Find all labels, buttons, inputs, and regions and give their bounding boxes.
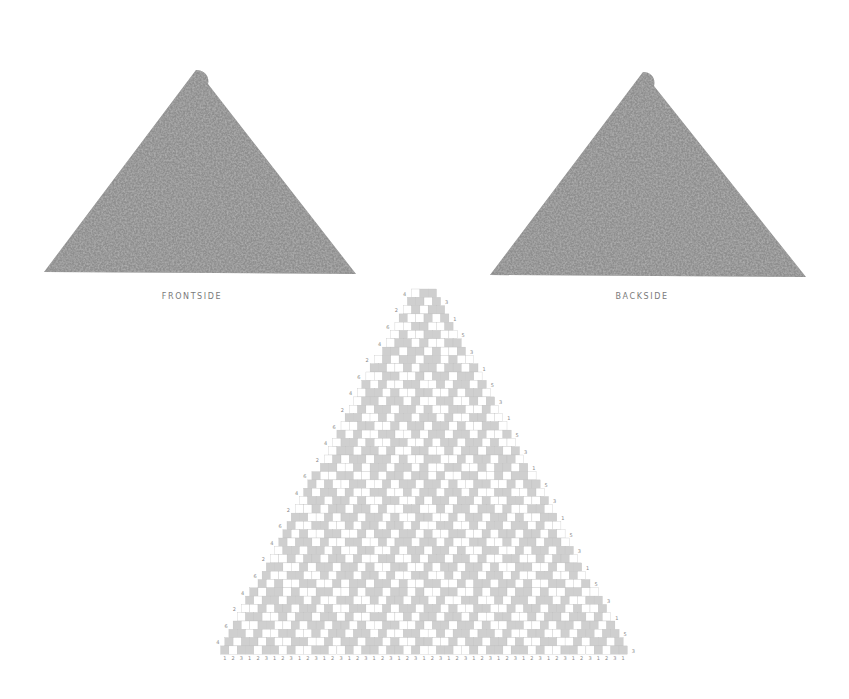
chart-cell-shaded	[503, 488, 511, 496]
chart-cell-empty	[358, 389, 366, 397]
chart-cell-shaded	[441, 621, 449, 629]
chart-cell-empty	[486, 538, 494, 546]
chart-cell-empty	[532, 497, 540, 505]
chart-cell-empty	[461, 488, 469, 496]
chart-cell-empty	[486, 488, 494, 496]
chart-cell-empty	[544, 505, 552, 513]
stitch-label-bottom: 2	[381, 655, 384, 661]
chart-cell-shaded	[549, 604, 557, 612]
chart-cell-shaded	[507, 497, 515, 505]
chart-cell-shaded	[490, 513, 498, 521]
chart-cell-shaded	[349, 588, 357, 596]
chart-cell-shaded	[482, 604, 490, 612]
chart-cell-empty	[283, 621, 291, 629]
chart-cell-empty	[391, 480, 399, 488]
chart-cell-shaded	[378, 538, 386, 546]
chart-cell-shaded	[532, 530, 540, 538]
chart-cell-empty	[486, 414, 494, 422]
chart-cell-shaded	[399, 588, 407, 596]
chart-cell-shaded	[428, 555, 436, 563]
chart-cell-shaded	[432, 297, 440, 305]
chart-cell-empty	[295, 629, 303, 637]
chart-cell-shaded	[270, 596, 278, 604]
chart-cell-empty	[499, 546, 507, 554]
chart-cell-shaded	[378, 364, 386, 372]
chart-cell-empty	[412, 463, 420, 471]
chart-cell-shaded	[416, 621, 424, 629]
chart-cell-shaded	[424, 455, 432, 463]
chart-cell-shaded	[424, 438, 432, 446]
chart-cell-shaded	[366, 546, 374, 554]
chart-cell-shaded	[466, 638, 474, 646]
chart-cell-empty	[304, 646, 312, 654]
chart-cell-empty	[445, 505, 453, 513]
chart-cell-shaded	[366, 389, 374, 397]
chart-cell-shaded	[453, 629, 461, 637]
chart-cell-shaded	[503, 629, 511, 637]
chart-cell-empty	[486, 555, 494, 563]
chart-cell-empty	[258, 588, 266, 596]
chart-row	[349, 405, 498, 413]
chart-cell-shaded	[300, 513, 308, 521]
chart-cell-empty	[449, 422, 457, 430]
chart-cell-shaded	[499, 638, 507, 646]
chart-cell-empty	[441, 389, 449, 397]
chart-cell-shaded	[391, 347, 399, 355]
chart-cell-shaded	[445, 521, 453, 529]
chart-cell-empty	[520, 555, 528, 563]
chart-cell-shaded	[449, 480, 457, 488]
chart-cell-shaded	[246, 613, 254, 621]
chart-cell-shaded	[395, 521, 403, 529]
chart-cell-shaded	[358, 604, 366, 612]
chart-cell-empty	[337, 613, 345, 621]
chart-cell-empty	[441, 331, 449, 339]
chart-cell-shaded	[486, 505, 494, 513]
chart-cell-shaded	[536, 571, 544, 579]
chart-cell-shaded	[457, 546, 465, 554]
chart-cell-empty	[349, 405, 357, 413]
chart-cell-shaded	[391, 563, 399, 571]
chart-cell-empty	[470, 463, 478, 471]
chart-cell-shaded	[441, 588, 449, 596]
chart-cell-shaded	[345, 521, 353, 529]
chart-cell-empty	[395, 364, 403, 372]
chart-cell-empty	[449, 347, 457, 355]
chart-cell-empty	[528, 521, 536, 529]
chart-cell-shaded	[412, 505, 420, 513]
chart-cell-empty	[416, 530, 424, 538]
chart-cell-shaded	[507, 530, 515, 538]
chart-cell-empty	[486, 472, 494, 480]
chart-cell-shaded	[304, 555, 312, 563]
chart-cell-empty	[320, 472, 328, 480]
chart-cell-empty	[246, 629, 254, 637]
chart-cell-shaded	[515, 638, 523, 646]
chart-cell-shaded	[320, 613, 328, 621]
stitch-label-bottom: 1	[497, 655, 500, 661]
chart-cell-shaded	[424, 604, 432, 612]
chart-cell-empty	[482, 588, 490, 596]
chart-cell-shaded	[540, 588, 548, 596]
chart-cell-empty	[320, 629, 328, 637]
chart-cell-empty	[553, 571, 561, 579]
chart-cell-shaded	[237, 646, 245, 654]
chart-cell-shaded	[420, 571, 428, 579]
chart-cell-empty	[416, 355, 424, 363]
chart-cell-shaded	[399, 480, 407, 488]
chart-cell-empty	[499, 604, 507, 612]
chart-cell-shaded	[453, 463, 461, 471]
chart-cell-empty	[561, 538, 569, 546]
chart-cell-empty	[478, 613, 486, 621]
chart-cell-empty	[399, 546, 407, 554]
chart-cell-empty	[499, 563, 507, 571]
chart-cell-empty	[291, 580, 299, 588]
chart-cell-empty	[407, 372, 415, 380]
chart-cell-empty	[403, 596, 411, 604]
chart-cell-shaded	[603, 629, 611, 637]
chart-cell-empty	[395, 488, 403, 496]
chart-cell-empty	[387, 488, 395, 496]
chart-cell-shaded	[324, 563, 332, 571]
chart-cell-shaded	[275, 588, 283, 596]
chart-cell-shaded	[441, 422, 449, 430]
chart-cell-shaded	[345, 472, 353, 480]
chart-cell-shaded	[573, 588, 581, 596]
